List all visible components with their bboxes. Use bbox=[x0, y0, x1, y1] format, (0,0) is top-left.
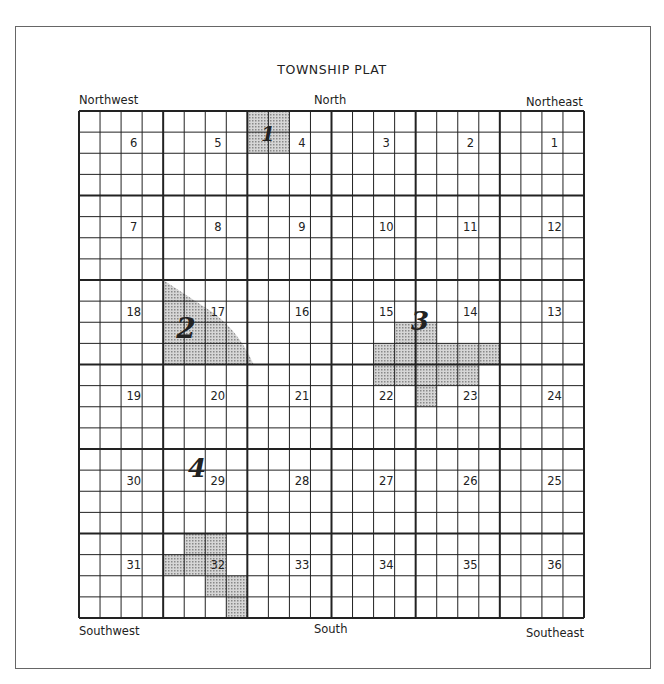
section-21: 21 bbox=[295, 389, 310, 403]
section-25: 25 bbox=[547, 474, 562, 488]
section-5: 5 bbox=[214, 136, 221, 150]
township-grid bbox=[0, 0, 664, 684]
section-29: 29 bbox=[211, 474, 226, 488]
section-36: 36 bbox=[547, 558, 562, 572]
section-18: 18 bbox=[126, 305, 141, 319]
section-31: 31 bbox=[126, 558, 141, 572]
area-3-label: 3 bbox=[411, 306, 429, 336]
section-15: 15 bbox=[379, 305, 394, 319]
area-2-label: 2 bbox=[176, 312, 195, 345]
section-30: 30 bbox=[126, 474, 141, 488]
section-32: 32 bbox=[211, 558, 226, 572]
section-27: 27 bbox=[379, 474, 394, 488]
section-20: 20 bbox=[211, 389, 226, 403]
section-11: 11 bbox=[463, 220, 478, 234]
section-35: 35 bbox=[463, 558, 478, 572]
section-13: 13 bbox=[547, 305, 562, 319]
section-7: 7 bbox=[130, 220, 137, 234]
section-28: 28 bbox=[295, 474, 310, 488]
section-2: 2 bbox=[467, 136, 474, 150]
area-4-label: 4 bbox=[188, 453, 206, 483]
section-22: 22 bbox=[379, 389, 394, 403]
section-34: 34 bbox=[379, 558, 394, 572]
section-19: 19 bbox=[126, 389, 141, 403]
section-10: 10 bbox=[379, 220, 394, 234]
section-24: 24 bbox=[547, 389, 562, 403]
section-3: 3 bbox=[383, 136, 390, 150]
section-23: 23 bbox=[463, 389, 478, 403]
section-12: 12 bbox=[547, 220, 562, 234]
section-1: 1 bbox=[551, 136, 558, 150]
section-6: 6 bbox=[130, 136, 137, 150]
area-1-label: 1 bbox=[261, 122, 275, 146]
section-33: 33 bbox=[295, 558, 310, 572]
section-16: 16 bbox=[295, 305, 310, 319]
section-9: 9 bbox=[298, 220, 305, 234]
section-8: 8 bbox=[214, 220, 221, 234]
section-26: 26 bbox=[463, 474, 478, 488]
section-17: 17 bbox=[211, 305, 226, 319]
section-4: 4 bbox=[298, 136, 305, 150]
section-14: 14 bbox=[463, 305, 478, 319]
